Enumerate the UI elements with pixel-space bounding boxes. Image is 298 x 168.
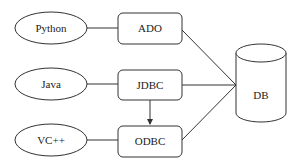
node-odbc: ODBC <box>118 126 182 157</box>
node-java-label: Java <box>41 78 61 90</box>
node-ado: ADO <box>118 13 182 44</box>
node-python: Python <box>15 12 87 44</box>
node-jdbc: JDBC <box>118 70 182 100</box>
edge-odbc-db <box>182 85 236 140</box>
node-vcpp-label: VC++ <box>37 134 65 146</box>
node-db: DB <box>236 44 286 122</box>
node-db-label: DB <box>253 89 268 101</box>
edge-ado-db <box>182 30 236 85</box>
node-java: Java <box>15 68 87 100</box>
node-odbc-label: ODBC <box>135 135 166 147</box>
node-ado-label: ADO <box>138 22 162 34</box>
node-vcpp: VC++ <box>15 124 87 156</box>
node-python-label: Python <box>35 22 67 34</box>
diagram-canvas: Python Java VC++ ADO JDBC ODBC DB <box>0 0 298 168</box>
node-jdbc-label: JDBC <box>137 79 164 91</box>
